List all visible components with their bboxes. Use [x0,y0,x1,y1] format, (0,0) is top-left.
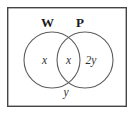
set-label-w: W [41,15,54,30]
region-label-p-only: 2y [86,54,98,67]
region-label-outside: y [62,86,69,99]
region-label-w-only: x [41,54,48,66]
set-label-p: P [76,15,84,30]
venn-diagram-figure: W P x x 2y y [0,0,134,114]
region-label-intersection: x [65,54,72,66]
